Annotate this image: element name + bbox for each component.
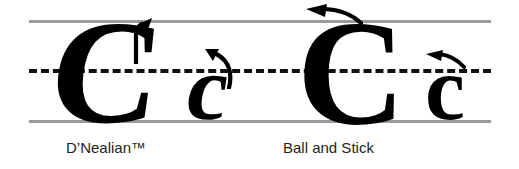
stroke-arrow-dnealian-uppercase-icon bbox=[122, 18, 156, 64]
stroke-arrow-ballstick-lowercase-icon bbox=[424, 50, 466, 72]
stroke-arrow-ballstick-uppercase-icon bbox=[303, 4, 363, 28]
caption-dnealian: D’Nealian™ bbox=[66, 139, 146, 156]
caption-ball-and-stick: Ball and Stick bbox=[283, 139, 374, 156]
handwriting-figure: C c C c D’Nealian™ Ball and Stick bbox=[0, 0, 519, 169]
stroke-arrow-dnealian-lowercase-icon bbox=[203, 47, 237, 89]
